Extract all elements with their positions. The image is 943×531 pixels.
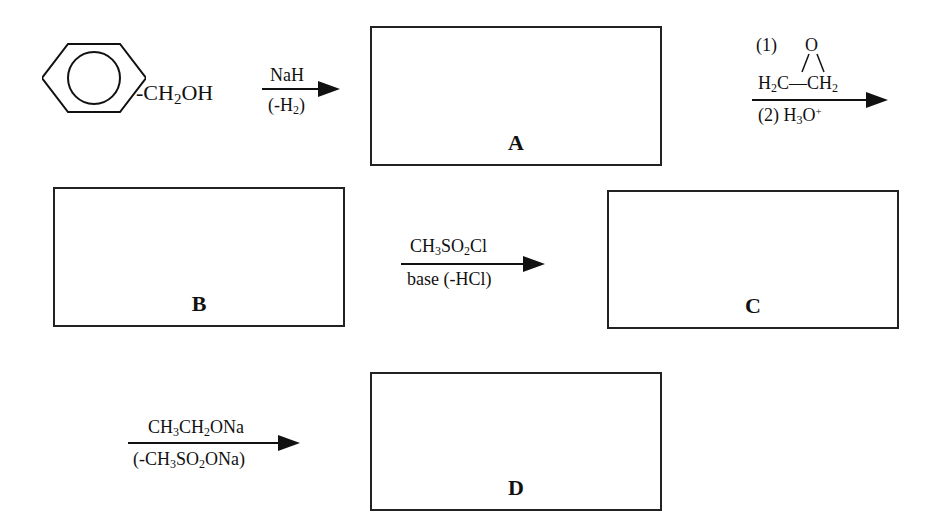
- step3-reagent-below: base (-HCl): [407, 270, 491, 288]
- step4-reagent-above: CH3CH2ONa: [148, 418, 244, 438]
- benzene-ring-icon: [42, 42, 146, 114]
- box-a-label: A: [372, 130, 660, 156]
- step4-reagent-below: (-CH3SO2ONa): [133, 450, 245, 470]
- step1-reagent-below: (-H2): [268, 96, 305, 116]
- step3-arrow-head-icon: [523, 256, 545, 272]
- box-d-label: D: [372, 475, 660, 501]
- step2-prefix: (1): [756, 36, 777, 54]
- step2-arrow-line: [752, 99, 870, 101]
- step1-reagent-above: NaH: [270, 66, 304, 84]
- starting-material-substituent: -CH2OH: [136, 80, 213, 108]
- product-box-c[interactable]: C: [607, 190, 899, 329]
- epoxide-bonds-icon: [796, 52, 830, 74]
- box-b-label: B: [55, 291, 343, 317]
- step3-arrow-line: [401, 263, 525, 265]
- step2-reagent-below: (2) H3O+: [758, 106, 822, 126]
- step2-arrow-head-icon: [866, 92, 888, 108]
- step1-arrow-line: [262, 88, 322, 90]
- product-box-b[interactable]: B: [53, 187, 345, 327]
- product-box-a[interactable]: A: [370, 26, 662, 166]
- step3-reagent-above: CH3SO2Cl: [410, 237, 487, 257]
- product-box-d[interactable]: D: [370, 372, 662, 511]
- epoxide-carbons: H2C—CH2: [758, 74, 838, 94]
- step1-arrow-head-icon: [318, 81, 340, 97]
- step4-arrow-line: [128, 442, 280, 444]
- step4-arrow-head-icon: [278, 435, 300, 451]
- box-c-label: C: [609, 293, 897, 319]
